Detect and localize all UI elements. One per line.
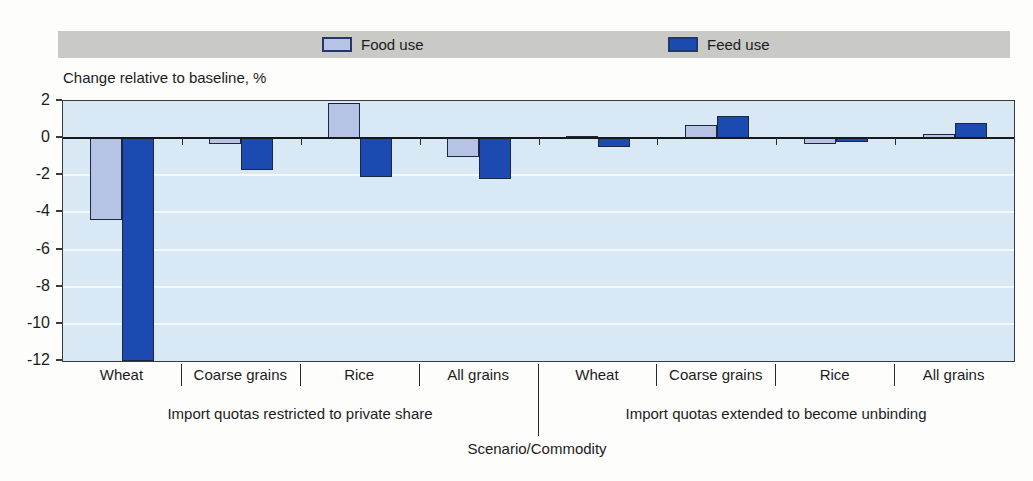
zero-line-tick: [776, 138, 777, 145]
feed-use-swatch-icon: [668, 37, 698, 52]
plot-area: [62, 100, 1015, 362]
x-axis-title: Scenario/Commodity: [467, 440, 606, 457]
feed-use-bar-coarse-grains: [717, 116, 749, 138]
zero-line-tick: [539, 138, 540, 145]
scenario-divider: [538, 364, 539, 436]
feed-use-bar-wheat: [122, 138, 154, 361]
x-axis-category-labels: WheatCoarse grainsRiceAll grainsWheatCoa…: [62, 362, 1013, 386]
feed-use-bar-wheat: [598, 138, 630, 147]
gridline: [63, 323, 1014, 325]
feed-use-bar-rice: [360, 138, 392, 177]
y-axis: 20-2-4-6-8-10-12: [0, 100, 62, 360]
legend-label: Feed use: [707, 36, 770, 53]
legend-item-food-use: Food use: [322, 31, 424, 58]
food-use-bar-wheat: [90, 138, 122, 220]
y-axis-title: Change relative to baseline, %: [63, 69, 266, 86]
y-tick-label: -8: [10, 278, 50, 294]
category-label: Wheat: [100, 366, 143, 383]
y-tick-label: -12: [10, 352, 50, 368]
feed-use-bar-all-grains: [955, 123, 987, 138]
category-label: Rice: [820, 366, 850, 383]
y-tick-label: -4: [10, 203, 50, 219]
food-use-bar-all-grains: [447, 138, 479, 157]
category-divider: [419, 364, 420, 386]
legend-label: Food use: [361, 36, 424, 53]
y-tick-label: -2: [10, 166, 50, 182]
category-label: All grains: [447, 366, 509, 383]
category-label: All grains: [923, 366, 985, 383]
gridline: [63, 249, 1014, 251]
scenario-label-left: Import quotas restricted to private shar…: [167, 405, 432, 422]
category-label: Wheat: [575, 366, 618, 383]
y-tick-label: -6: [10, 241, 50, 257]
food-use-bar-rice: [328, 103, 360, 138]
category-divider: [300, 364, 301, 386]
y-tick-label: -10: [10, 315, 50, 331]
category-label: Coarse grains: [194, 366, 287, 383]
y-tick-label: 0: [10, 129, 50, 145]
legend-item-feed-use: Feed use: [668, 31, 770, 58]
category-label: Coarse grains: [669, 366, 762, 383]
y-tick-label: 2: [10, 92, 50, 108]
food-use-swatch-icon: [322, 37, 352, 52]
gridline: [63, 174, 1014, 176]
zero-line-tick: [301, 138, 302, 145]
category-divider: [181, 364, 182, 386]
zero-line-tick: [895, 138, 896, 145]
zero-line-tick: [420, 138, 421, 145]
gridline: [63, 211, 1014, 213]
zero-line-tick: [657, 138, 658, 145]
category-divider: [894, 364, 895, 386]
zero-line-tick: [182, 138, 183, 145]
feed-use-bar-all-grains: [479, 138, 511, 179]
category-label: Rice: [344, 366, 374, 383]
scenario-label-right: Import quotas extended to become unbindi…: [625, 405, 926, 422]
category-divider: [656, 364, 657, 386]
gridline: [63, 286, 1014, 288]
category-divider: [775, 364, 776, 386]
feed-use-bar-coarse-grains: [241, 138, 273, 170]
legend: Food use Feed use: [58, 31, 1010, 58]
